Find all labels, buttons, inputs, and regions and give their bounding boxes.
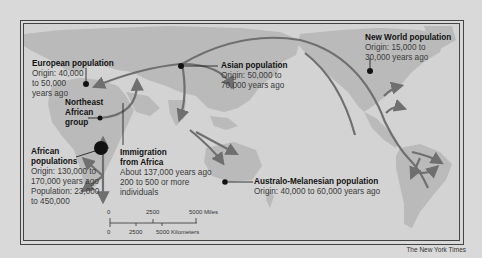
african-populations-label: African populations Origin: 130,000 to 1… [31, 147, 99, 207]
northeast-african-group-label: Northeast African group [65, 98, 103, 128]
scale-km-0: 0 [107, 229, 110, 235]
australo-melanesian-population-label: Australo-Melanesian population Origin: 4… [254, 177, 380, 197]
new-world-population-label: New World population Origin: 15,000 to 3… [365, 33, 451, 63]
credit-line: The New York Times [406, 246, 466, 253]
scale-bar [110, 218, 197, 227]
scale-miles-5000: 5000 Miles [189, 209, 218, 215]
scale-km-2500: 2500 [129, 229, 142, 235]
asian-population-label: Asian population Origin: 50,000 to 70,00… [221, 61, 287, 91]
scale-miles-0: 0 [107, 209, 110, 215]
scale-km-5000: 5000 Kilometers [156, 229, 199, 235]
scale-miles-2500: 2500 [146, 209, 159, 215]
european-population-label: European population Origin: 40,000 to 50… [32, 59, 114, 99]
immigration-from-africa-label: Immigration from Africa About 137,000 ye… [120, 148, 212, 198]
